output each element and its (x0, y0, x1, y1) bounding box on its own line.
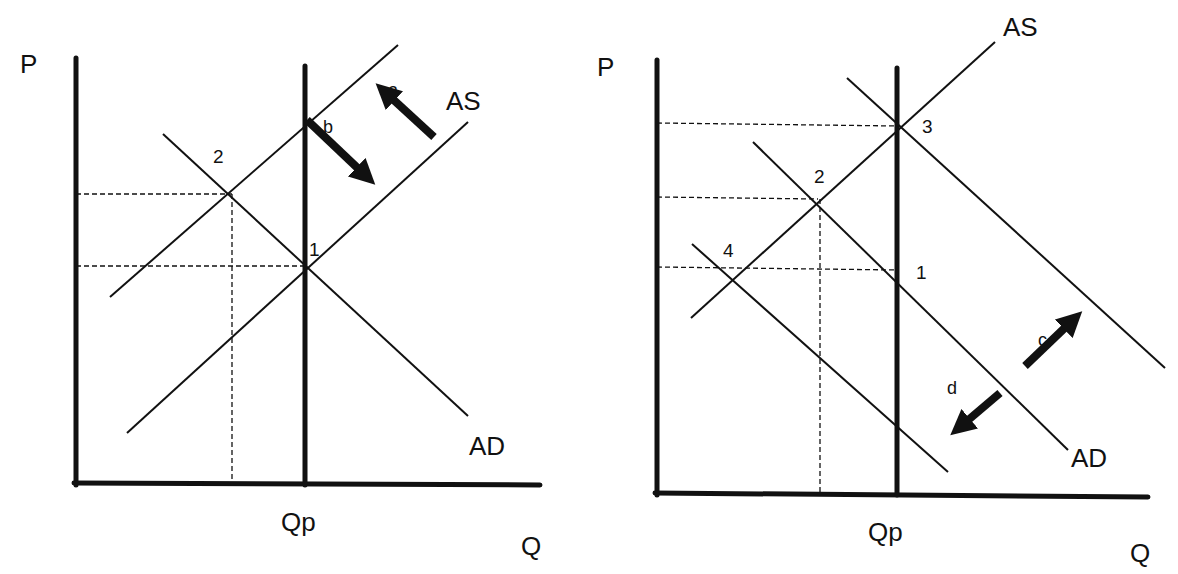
as-curve (691, 42, 995, 318)
right-point-1-label: 1 (916, 262, 927, 283)
as-curve (127, 122, 468, 433)
right-point-3-label: 3 (922, 116, 933, 137)
left-dashed-guides (76, 194, 305, 483)
left-ad-label: AD (469, 431, 505, 461)
arrow-b-icon (307, 120, 366, 176)
right-dashed-guides (657, 123, 897, 495)
arrow-c-icon (1025, 320, 1073, 366)
right-point-4-label: 4 (723, 240, 734, 261)
x-axis (655, 493, 1148, 497)
left-qp-label: Qp (281, 507, 316, 537)
right-point-2-label: 2 (814, 166, 825, 187)
left-panel: P Q Qp AS AD 1 2 a b (20, 45, 541, 561)
right-panel: P Q Qp AS AD 1 2 3 4 c d (597, 12, 1165, 568)
left-x-axis-label: Q (521, 531, 541, 561)
right-as-label: AS (1003, 12, 1038, 42)
ad-curve (753, 142, 1068, 450)
left-as-label: AS (446, 86, 481, 116)
dashed-price-2 (657, 197, 818, 199)
right-qp-label: Qp (868, 517, 903, 547)
ad-left-shifted-curve (692, 244, 948, 472)
left-point-1-label: 1 (309, 239, 320, 260)
arrow-c-label: c (1038, 330, 1047, 350)
arrow-d-icon (960, 393, 1000, 427)
dashed-price-3 (657, 123, 897, 126)
dashed-price-1-4 (657, 267, 897, 270)
as-shifted-curve (110, 45, 398, 297)
arrow-a-label: a (388, 80, 399, 100)
ad-curve (163, 134, 468, 416)
diagram-canvas: P Q Qp AS AD 1 2 a b P Q Qp AS (0, 0, 1178, 574)
left-y-axis-label: P (20, 49, 37, 79)
arrow-d-label: d (947, 378, 957, 398)
arrow-b-label: b (323, 117, 333, 137)
right-ad-label: AD (1071, 443, 1107, 473)
right-y-axis-label: P (597, 52, 614, 82)
left-point-2-label: 2 (213, 146, 224, 167)
right-x-axis-label: Q (1130, 538, 1150, 568)
